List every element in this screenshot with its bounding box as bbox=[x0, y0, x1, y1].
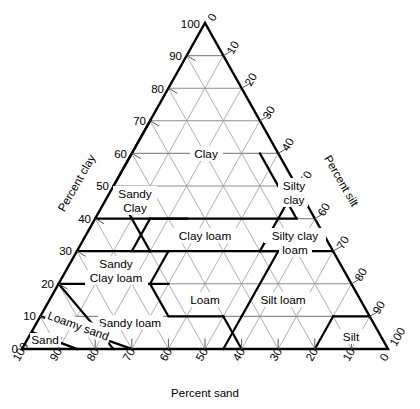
class-label-sandy-clay-loam-line2: Clay loam bbox=[90, 271, 143, 285]
class-label-silty-clay-loam-line1: Silty clay bbox=[272, 229, 319, 243]
class-label-silt-text: Silt bbox=[343, 330, 360, 344]
class-label-silty-clay-loam-line2: loam bbox=[282, 243, 308, 257]
class-label-clay-loam: Clay loam bbox=[173, 228, 237, 243]
class-label-silty-clay-line1: Silty bbox=[283, 179, 305, 193]
axis-left-tick-10: 10 bbox=[23, 310, 36, 322]
axis-left-tick-20: 20 bbox=[41, 278, 54, 290]
axis-left-tick-40: 40 bbox=[78, 213, 91, 225]
class-label-silty-clay-line2: clay bbox=[284, 193, 305, 207]
class-label-sandy-clay-line2: Clay bbox=[123, 201, 147, 215]
axis-left-tick-70: 70 bbox=[133, 115, 146, 127]
class-label-silt: Silt bbox=[339, 329, 363, 344]
axis-left-tick-60: 60 bbox=[114, 148, 127, 160]
axis-left-tick-80: 80 bbox=[151, 83, 164, 95]
class-label-clay: Clay bbox=[190, 146, 223, 161]
class-label-loam-text: Loam bbox=[190, 293, 220, 307]
class-label-clay-loam-text: Clay loam bbox=[179, 229, 232, 243]
class-label-sandy-loam-text: Sandy loam bbox=[99, 316, 161, 330]
ternary-diagram-svg: 0 10 20 30 40 50 60 70 80 90 100 0 10 20… bbox=[0, 0, 420, 409]
class-label-sand: Sand bbox=[30, 333, 61, 347]
axis-bottom-title: Percent sand bbox=[171, 387, 239, 399]
class-label-sandy-loam: Sandy loam bbox=[98, 315, 163, 330]
class-label-sandy-clay-line1: Sandy bbox=[118, 187, 152, 201]
class-label-silt-loam-text: Silt loam bbox=[260, 293, 305, 307]
axis-left-tick-50: 50 bbox=[96, 180, 109, 192]
class-label-sand-text: Sand bbox=[31, 333, 59, 347]
axis-left-tick-30: 30 bbox=[59, 245, 72, 257]
axis-left-tick-90: 90 bbox=[169, 50, 182, 62]
class-label-loam: Loam bbox=[187, 292, 224, 307]
class-label-clay-text: Clay bbox=[194, 147, 218, 161]
class-label-silty-clay: Silty clay bbox=[278, 178, 310, 207]
class-label-silt-loam: Silt loam bbox=[256, 292, 311, 307]
class-label-sandy-clay-loam-line1: Sandy bbox=[99, 257, 133, 271]
soil-texture-triangle-chart: 0 10 20 30 40 50 60 70 80 90 100 0 10 20… bbox=[0, 0, 420, 409]
class-label-sandy-clay: Sandy Clay bbox=[113, 186, 157, 215]
axis-left-tick-100: 100 bbox=[181, 18, 200, 30]
